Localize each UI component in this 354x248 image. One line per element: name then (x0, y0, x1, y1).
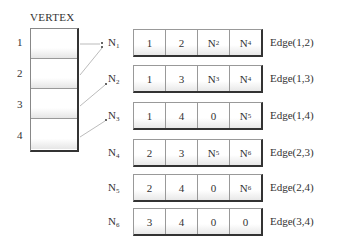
record-cell: 0 (198, 103, 230, 128)
record-cell: N6 (230, 175, 261, 200)
record-cell: N3 (198, 66, 230, 91)
node-label-4: N4 (108, 146, 119, 160)
record-cell: N6 (230, 140, 261, 165)
record-cell: 4 (166, 175, 198, 200)
node-label-3: N3 (108, 109, 119, 123)
edge-label-6: Edge(3,4) (270, 215, 314, 227)
node-label-5: N5 (108, 181, 119, 195)
record-cell: N5 (230, 103, 261, 128)
record-cell: 2 (166, 30, 198, 55)
node-label-6: N6 (108, 215, 119, 229)
record-cell: 4 (166, 103, 198, 128)
node-label-2: N2 (108, 72, 119, 86)
record-cell: N4 (230, 66, 261, 91)
edge-record-4: 23N5N6 (133, 139, 263, 167)
record-cell: 1 (134, 30, 166, 55)
record-cell: N5 (198, 140, 230, 165)
record-cell: 1 (134, 103, 166, 128)
record-cell: 2 (134, 175, 166, 200)
edge-label-2: Edge(1,3) (270, 72, 314, 84)
record-cell: 3 (166, 140, 198, 165)
record-cell: N2 (198, 30, 230, 55)
edge-record-3: 140N5 (133, 102, 263, 130)
edge-record-5: 240N6 (133, 174, 263, 202)
edge-label-1: Edge(1,2) (270, 36, 314, 48)
record-cell: 3 (166, 66, 198, 91)
edge-record-1: 12N2N4 (133, 29, 263, 57)
node-label-1: N1 (108, 36, 119, 50)
record-cell: 1 (134, 66, 166, 91)
edge-label-3: Edge(1,4) (270, 109, 314, 121)
edge-record-2: 13N3N4 (133, 65, 263, 93)
record-cell: 0 (230, 209, 261, 234)
record-cell: 4 (166, 209, 198, 234)
record-cell: N4 (230, 30, 261, 55)
record-cell: 0 (198, 175, 230, 200)
record-cell: 0 (198, 209, 230, 234)
record-cell: 2 (134, 140, 166, 165)
edge-label-5: Edge(2,4) (270, 181, 314, 193)
edge-record-6: 3400 (133, 208, 263, 236)
edge-label-4: Edge(2,3) (270, 146, 314, 158)
record-cell: 3 (134, 209, 166, 234)
